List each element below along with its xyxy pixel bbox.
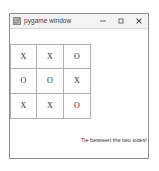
board-cell[interactable]: X <box>37 44 64 69</box>
board-cell[interactable]: O <box>10 69 37 94</box>
board-cell[interactable]: X <box>10 44 37 69</box>
minimize-icon <box>100 21 106 22</box>
close-button[interactable] <box>130 14 148 28</box>
board-cell[interactable]: O <box>37 69 64 94</box>
minimize-button[interactable] <box>94 14 112 28</box>
close-icon <box>136 18 143 25</box>
cell-mark: X <box>74 77 80 85</box>
pygame-app-icon <box>13 17 21 25</box>
game-surface: X X O O O X X <box>10 29 148 158</box>
board-cell[interactable]: X <box>37 94 64 119</box>
game-status-message: Tie between the two sides! <box>55 137 147 144</box>
board-cell[interactable]: O <box>64 94 91 119</box>
maximize-button[interactable] <box>112 14 130 28</box>
cell-mark: X <box>47 102 53 110</box>
pygame-window: pygame window X X O <box>9 13 149 159</box>
board-cell[interactable]: X <box>64 69 91 94</box>
window-titlebar[interactable]: pygame window <box>10 14 148 29</box>
tic-tac-toe-board: X X O O O X X <box>10 44 91 119</box>
cell-mark: O <box>21 77 27 85</box>
board-cell[interactable]: O <box>64 44 91 69</box>
cell-mark: O <box>74 102 80 110</box>
maximize-icon <box>119 19 124 24</box>
screen-root: pygame window X X O <box>0 0 159 171</box>
window-title: pygame window <box>24 17 94 25</box>
cell-mark: X <box>21 102 27 110</box>
board-cell[interactable]: X <box>10 94 37 119</box>
cell-mark: X <box>21 53 27 61</box>
cell-mark: O <box>47 77 53 85</box>
cell-mark: X <box>47 53 53 61</box>
cell-mark: O <box>74 53 80 61</box>
